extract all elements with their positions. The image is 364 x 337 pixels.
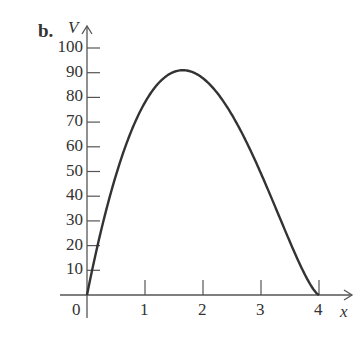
chart: b. V x 102030405060708090100 01234: [0, 0, 364, 337]
data-curve: [87, 70, 319, 295]
plot-area: [0, 0, 364, 337]
